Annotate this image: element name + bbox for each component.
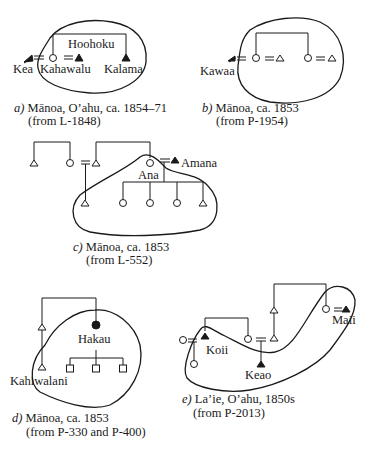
label-kahiwalani: Kahiwalani bbox=[10, 374, 68, 388]
male-symbol-c2 bbox=[92, 160, 100, 166]
male-filled-symbol-amana bbox=[171, 157, 179, 163]
female-symbol-b1 bbox=[253, 55, 260, 62]
marriage-sign-c1 bbox=[81, 161, 90, 164]
marriage-sign-maii bbox=[334, 308, 342, 311]
label-keao: Keao bbox=[245, 368, 271, 382]
square-symbol-d3 bbox=[120, 365, 127, 372]
caption-b-line2: (from P-1954) bbox=[216, 114, 288, 128]
female-filled-symbol-hakau bbox=[92, 321, 100, 329]
female-symbol-b2 bbox=[305, 55, 312, 62]
marriage-sign-b1 bbox=[265, 57, 274, 60]
marriage-sign-amana bbox=[160, 159, 170, 162]
label-koii: Koii bbox=[206, 343, 229, 357]
marriage-sign-hoohoku bbox=[64, 56, 73, 59]
children-line-d bbox=[70, 358, 123, 365]
label-hoohoku: Hoohoku bbox=[68, 37, 115, 51]
caption-a-line1: a) Mānoa, O’ahu, ca. 1854–71 bbox=[14, 101, 167, 115]
square-symbol-d1 bbox=[67, 365, 74, 372]
caption-c-line1: c) Mānoa, ca. 1853 bbox=[73, 240, 169, 254]
children-line-c bbox=[123, 182, 203, 200]
residence-boundary-d bbox=[32, 310, 141, 407]
male-symbol-e3 bbox=[270, 307, 278, 313]
male-symbol-c1 bbox=[30, 160, 38, 166]
square-symbol-d2 bbox=[93, 365, 100, 372]
male-symbol-c-child1 bbox=[81, 200, 89, 206]
sibling-line-e1 bbox=[205, 318, 248, 337]
male-filled-symbol-hoohoku bbox=[75, 54, 83, 61]
label-kalama: Kalama bbox=[104, 62, 143, 76]
diagram-e: Koii Keao Maii e) La’ie, O’ahu, 1850s (f… bbox=[180, 284, 357, 420]
marriage-sign-koii bbox=[188, 339, 197, 342]
caption-d-line2: (from P-330 and P-400) bbox=[26, 425, 146, 439]
caption-e-line1: e) La’ie, O’ahu, 1850s bbox=[182, 392, 295, 406]
male-symbol-e2 bbox=[270, 335, 278, 341]
diagram-d: Hakau Kahiwalani d) Mānoa, ca. 1853 (fro… bbox=[10, 298, 146, 439]
caption-d-line1: d) Mānoa, ca. 1853 bbox=[12, 411, 109, 425]
male-filled-symbol-keao bbox=[257, 361, 265, 367]
female-symbol-ana bbox=[147, 160, 154, 167]
sibling-line-d bbox=[42, 298, 96, 328]
male-filled-symbol-maii bbox=[342, 306, 350, 312]
male-symbol-b1 bbox=[276, 55, 284, 61]
kinship-diagrams-figure: Hoohoku Kea Kahawalu Kalama a) Mānoa, O’… bbox=[0, 0, 368, 453]
label-hakau: Hakau bbox=[78, 332, 111, 346]
caption-c-line2: (from L-552) bbox=[86, 253, 152, 267]
diagram-c: Amana Ana c) Mānoa, ca. 1853 (from L-552… bbox=[30, 142, 218, 267]
marriage-sign-e2 bbox=[256, 338, 266, 341]
sibling-line-b bbox=[256, 33, 308, 55]
caption-e-line2: (from P-2013) bbox=[193, 406, 265, 420]
label-kea: Kea bbox=[13, 62, 34, 76]
male-symbol-kahiwalani bbox=[38, 364, 46, 370]
female-symbol-kahawalu bbox=[50, 55, 57, 62]
male-symbol-d1 bbox=[38, 324, 46, 330]
female-symbol-e2 bbox=[245, 336, 252, 343]
female-symbol-c-child2 bbox=[120, 200, 127, 207]
marriage-sign-b2 bbox=[316, 57, 325, 60]
female-symbol-e1 bbox=[180, 337, 187, 344]
caption-a-line2: (from L-1848) bbox=[28, 114, 101, 128]
male-symbol-c-child5 bbox=[199, 200, 207, 206]
caption-b-line1: b) Mānoa, ca. 1853 bbox=[202, 101, 299, 115]
male-symbol-b2 bbox=[328, 55, 336, 61]
diagram-b: Kawaa b) Mānoa, ca. 1853 (from P-1954) bbox=[200, 18, 343, 128]
label-kahawalu: Kahawalu bbox=[40, 62, 91, 76]
label-maii: Maii bbox=[332, 313, 356, 327]
female-symbol-c-child3 bbox=[147, 200, 154, 207]
label-amana: Amana bbox=[181, 156, 218, 170]
female-symbol-c-child4 bbox=[174, 200, 181, 207]
male-filled-symbol-koii bbox=[201, 333, 209, 339]
female-symbol-e3 bbox=[323, 306, 330, 313]
female-symbol-e-child bbox=[191, 361, 198, 368]
female-symbol-c1 bbox=[67, 160, 74, 167]
label-kawaa: Kawaa bbox=[200, 64, 235, 78]
sibling-line-e2 bbox=[274, 284, 326, 307]
sibling-line-c-right bbox=[96, 142, 150, 161]
label-ana: Ana bbox=[138, 168, 159, 182]
male-filled-symbol-kalama bbox=[122, 54, 130, 61]
diagram-a: Hoohoku Kea Kahawalu Kalama a) Mānoa, O’… bbox=[13, 21, 167, 128]
sibling-line-c-left bbox=[34, 142, 70, 161]
